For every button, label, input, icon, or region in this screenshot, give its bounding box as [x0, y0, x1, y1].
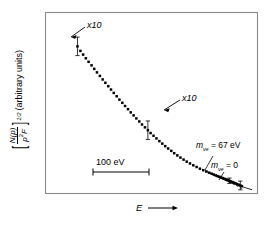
- error-bar: [146, 121, 150, 139]
- data-point: [195, 166, 198, 169]
- data-point: [141, 123, 144, 126]
- data-point: [155, 137, 158, 140]
- data-point: [124, 105, 127, 108]
- data-point: [152, 134, 155, 137]
- data-point: [167, 147, 170, 150]
- data-point: [121, 102, 124, 105]
- data-point: [192, 164, 195, 167]
- data-point: [113, 92, 116, 95]
- data-point: [101, 78, 104, 81]
- data-point: [138, 120, 141, 123]
- data-point: [144, 126, 147, 129]
- data-point: [135, 117, 138, 120]
- data-point: [79, 50, 82, 53]
- multiplier-middle-leader: [164, 100, 180, 112]
- data-point: [110, 88, 113, 91]
- data-point: [158, 140, 161, 143]
- data-series-layer: [76, 45, 243, 187]
- data-point: [189, 162, 192, 165]
- data-point: [107, 85, 110, 88]
- data-point: [127, 108, 130, 111]
- data-point: [202, 169, 205, 172]
- data-point: [132, 114, 135, 117]
- error-bars-layer: [75, 37, 242, 190]
- scale-bar: [93, 169, 149, 176]
- mass-curve-1-leader: [205, 156, 213, 170]
- data-point: [96, 71, 99, 74]
- plot-canvas: [0, 0, 277, 225]
- data-point: [176, 154, 179, 157]
- data-point: [118, 98, 121, 101]
- data-point: [85, 57, 88, 60]
- data-point: [104, 82, 107, 85]
- x-axis-arrow: [148, 206, 178, 210]
- data-point: [82, 53, 85, 56]
- data-point: [149, 132, 152, 135]
- data-point: [173, 152, 176, 155]
- data-point: [182, 158, 185, 161]
- data-point: [90, 64, 93, 67]
- data-point: [185, 160, 188, 163]
- data-point: [164, 145, 167, 148]
- kurie-plot-figure: [ N(p) p2F ]1/2 (arbitrary units) x10 x1…: [0, 0, 277, 225]
- data-point: [93, 68, 96, 71]
- data-point: [129, 111, 132, 114]
- error-bar: [75, 37, 79, 55]
- data-point: [99, 75, 102, 78]
- data-point: [179, 156, 182, 159]
- data-point: [170, 150, 173, 153]
- data-point: [115, 95, 118, 98]
- data-point: [199, 167, 202, 170]
- data-point: [87, 61, 90, 64]
- data-point: [161, 142, 164, 145]
